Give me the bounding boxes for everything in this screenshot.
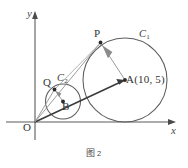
figure-caption-text: 图 <box>86 148 96 158</box>
x-axis-label: x <box>171 125 176 136</box>
y-axis-label: y <box>27 8 32 19</box>
point-marker-p <box>99 41 103 45</box>
point-label-a-with-coordinates: A(10, 5) <box>126 74 165 85</box>
point-label-q: Q <box>43 77 51 88</box>
circle-label-c2: C2 <box>57 73 68 84</box>
circle-label-c2-subscript: 2 <box>64 77 68 85</box>
radius-ap-arrow-icon <box>102 45 112 58</box>
point-label-p: P <box>94 28 100 39</box>
figure-caption-number: 2 <box>97 149 102 158</box>
point-marker-q <box>53 88 57 92</box>
circle-label-c1-subscript: 1 <box>146 33 150 41</box>
point-label-b: B <box>62 101 70 112</box>
x-axis <box>6 119 176 125</box>
geometry-figure: y x O P Q B A(10, 5) C1 C2 图2 <box>0 0 188 168</box>
figure-caption: 图2 <box>0 146 188 159</box>
origin-label: O <box>23 122 31 133</box>
circle-label-c1: C1 <box>139 29 150 40</box>
y-axis-arrow-icon <box>32 11 38 19</box>
